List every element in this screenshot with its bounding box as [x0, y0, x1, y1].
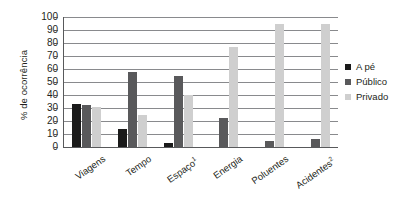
legend-label: A pé: [356, 62, 375, 72]
bar: [184, 95, 193, 147]
bar-chart-figure: % de ocorrência 1009080706050403020100 V…: [0, 0, 407, 211]
y-tick-label: 60: [18, 64, 58, 74]
legend-item: Privado: [345, 90, 405, 104]
y-tick-mark: [54, 108, 58, 109]
legend-label: Privado: [356, 92, 388, 102]
y-tick-mark: [54, 56, 58, 57]
y-tick-mark: [54, 134, 58, 135]
chart-legend: A péPúblicoPrivado: [345, 60, 405, 105]
bar-group: [292, 17, 338, 147]
y-tick-mark: [54, 147, 58, 148]
y-tick-label: 70: [18, 51, 58, 61]
y-tick-label: 100: [18, 12, 58, 22]
bar: [82, 105, 91, 147]
bar: [321, 24, 330, 148]
bar: [174, 76, 183, 148]
y-tick-label: 20: [18, 116, 58, 126]
y-tick-mark: [54, 121, 58, 122]
bar: [275, 24, 284, 148]
y-tick-mark: [54, 69, 58, 70]
bar-group: [110, 17, 156, 147]
legend-item: A pé: [345, 60, 405, 74]
y-tick-label: 10: [18, 129, 58, 139]
y-tick-label: 90: [18, 25, 58, 35]
bar: [311, 139, 320, 147]
legend-label: Público: [356, 77, 387, 87]
bar: [229, 47, 238, 147]
y-tick-label: 80: [18, 38, 58, 48]
bar: [219, 118, 228, 147]
y-axis-tick-labels: 1009080706050403020100: [18, 17, 58, 147]
y-tick-label: 0: [18, 142, 58, 152]
bar-group: [64, 17, 110, 147]
y-tick-mark: [54, 82, 58, 83]
y-tick-mark: [54, 30, 58, 31]
y-tick-mark: [54, 95, 58, 96]
legend-swatch: [345, 94, 351, 100]
bar: [128, 72, 137, 147]
legend-swatch: [345, 64, 351, 70]
bar-group: [201, 17, 247, 147]
y-tick-label: 30: [18, 103, 58, 113]
legend-item: Público: [345, 75, 405, 89]
legend-swatch: [345, 79, 351, 85]
bar-group: [247, 17, 293, 147]
y-tick-mark: [54, 43, 58, 44]
y-tick-mark: [54, 17, 58, 18]
bar: [118, 129, 127, 147]
y-tick-label: 50: [18, 77, 58, 87]
bar: [72, 104, 81, 147]
bar: [138, 115, 147, 148]
bar-group: [155, 17, 201, 147]
bar: [92, 107, 101, 147]
plot-area: [64, 17, 338, 147]
y-tick-label: 40: [18, 90, 58, 100]
x-axis-category-labels: ViagensTempoEspaço1EnergiaPoluentesAcide…: [64, 147, 338, 211]
